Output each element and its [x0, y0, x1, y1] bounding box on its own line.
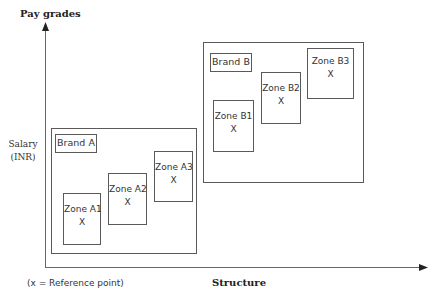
brand-a-label: Brand A: [55, 134, 97, 153]
y-axis-label: Salary (INR): [4, 138, 42, 164]
zone-a3: Zone A3 X: [154, 151, 193, 202]
zone-b2: Zone B2 X: [261, 72, 301, 124]
zone-b1: Zone B1 X: [213, 100, 254, 152]
reference-point-note: (x = Reference point): [27, 278, 124, 288]
zone-a1-reference-point: X: [64, 217, 100, 227]
zone-b3: Zone B3 X: [307, 48, 354, 99]
brand-b-label: Brand B: [210, 53, 252, 72]
x-axis-title: Structure: [212, 277, 266, 288]
zone-b3-name: Zone B3: [308, 56, 353, 66]
y-axis-title: Pay grades: [20, 8, 81, 19]
zone-b1-name: Zone B1: [214, 111, 253, 121]
zone-a3-name: Zone A3: [155, 162, 192, 172]
zone-b1-reference-point: X: [214, 124, 253, 134]
zone-b3-reference-point: X: [308, 69, 353, 79]
zone-a2: Zone A2 X: [108, 173, 147, 225]
y-axis-arrowhead-icon: [42, 22, 49, 31]
zone-b2-reference-point: X: [262, 96, 300, 106]
zone-a2-name: Zone A2: [109, 184, 146, 194]
y-axis-label-line1: Salary: [4, 138, 42, 151]
y-axis-label-line2: (INR): [4, 151, 42, 164]
zone-a2-reference-point: X: [109, 197, 146, 207]
zone-b2-name: Zone B2: [262, 83, 300, 93]
x-axis-arrowhead-icon: [419, 264, 428, 271]
zone-a1: Zone A1 X: [63, 193, 101, 245]
zone-a3-reference-point: X: [155, 175, 192, 185]
zone-a1-name: Zone A1: [64, 204, 100, 214]
